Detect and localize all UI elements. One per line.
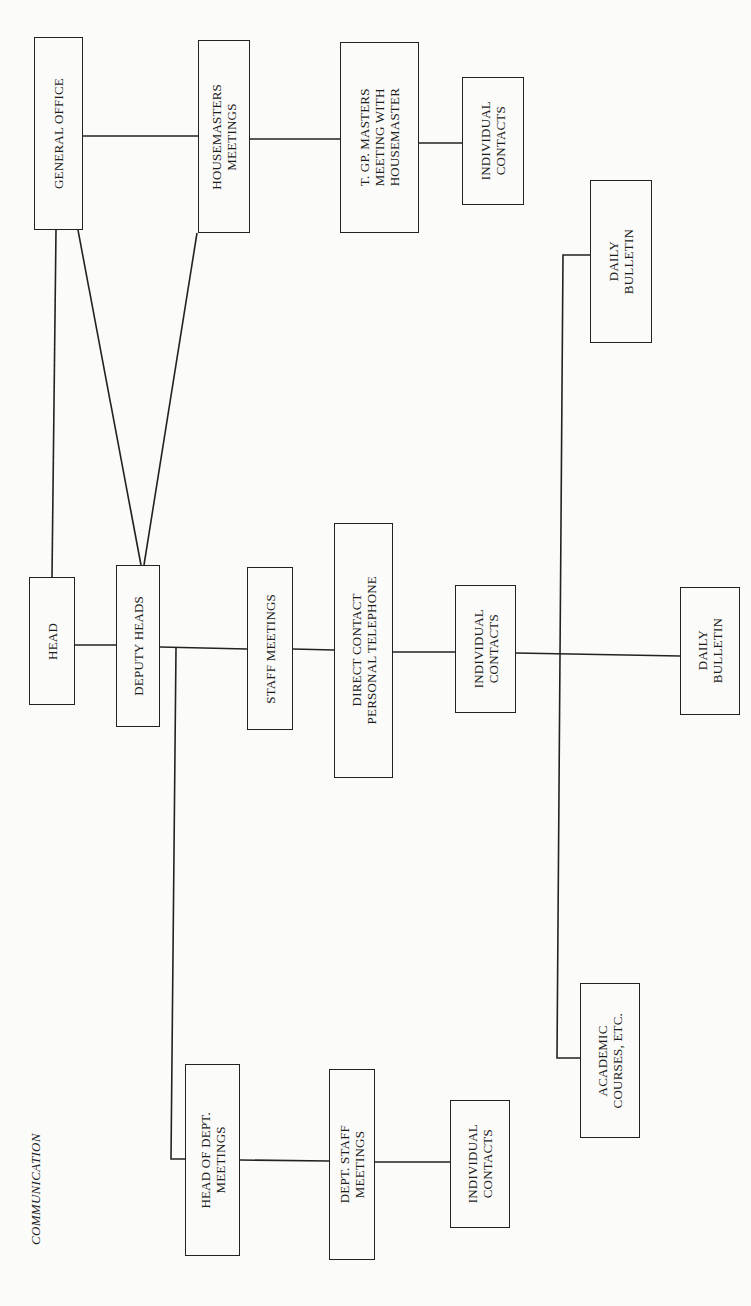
node-label: T. GP. MASTERS MEETING WITH HOUSEMASTER	[357, 88, 402, 186]
figure-caption: COMMUNICATION	[28, 1095, 44, 1245]
node-label: STAFF MEETINGS	[263, 594, 278, 704]
node-label: HOUSEMASTERS MEETINGS	[209, 84, 239, 190]
node-general-office: GENERAL OFFICE	[34, 37, 83, 230]
node-head: HEAD	[29, 577, 75, 705]
node-academic-courses: ACADEMIC COURSES, ETC.	[580, 983, 640, 1138]
node-label: HEAD	[45, 623, 60, 660]
node-label: DAILY BULLETIN	[695, 618, 725, 683]
node-dept-staff-meetings: DEPT. STAFF MEETINGS	[329, 1069, 375, 1260]
edge-deputy-heads-head-of-dept	[171, 648, 185, 1159]
node-deputy-heads: DEPUTY HEADS	[116, 565, 160, 727]
node-direct-contact: DIRECT CONTACT PERSONAL TELEPHONE	[334, 523, 393, 778]
node-label: INDIVIDUAL CONTACTS	[478, 101, 508, 180]
edge-general-office-head	[52, 230, 56, 577]
node-staff-meetings: STAFF MEETINGS	[247, 567, 293, 730]
node-daily-bulletin-mid: DAILY BULLETIN	[680, 587, 740, 715]
node-label: DEPT. STAFF MEETINGS	[337, 1125, 367, 1203]
node-head-of-dept-meetings: HEAD OF DEPT. MEETINGS	[185, 1064, 240, 1256]
node-label: ACADEMIC COURSES, ETC.	[595, 1013, 625, 1108]
edge-staff-meetings-direct-contact	[293, 649, 334, 650]
node-label: DEPUTY HEADS	[131, 596, 146, 696]
node-label: INDIVIDUAL CONTACTS	[471, 609, 501, 688]
node-individual-contacts-mid: INDIVIDUAL CONTACTS	[455, 585, 516, 713]
node-label: GENERAL OFFICE	[51, 78, 66, 189]
node-label: HEAD OF DEPT. MEETINGS	[198, 1112, 228, 1209]
node-individual-contacts-bottom: INDIVIDUAL CONTACTS	[450, 1100, 510, 1228]
edge-housemasters-deputy-heads	[144, 233, 197, 565]
edge-bulletin-academic-trunk	[557, 255, 590, 1058]
node-label: DIRECT CONTACT PERSONAL TELEPHONE	[349, 576, 379, 724]
node-daily-bulletin-top: DAILY BULLETIN	[590, 180, 652, 343]
node-label: DAILY BULLETIN	[606, 229, 636, 294]
node-tgp-masters-meeting: T. GP. MASTERS MEETING WITH HOUSEMASTER	[340, 42, 419, 233]
edge-deputy-heads-staff-meetings	[160, 647, 247, 649]
node-label: INDIVIDUAL CONTACTS	[465, 1124, 495, 1203]
node-housemasters-meetings: HOUSEMASTERS MEETINGS	[198, 40, 250, 233]
edge-head-of-dept-dept-staff	[240, 1160, 329, 1161]
node-individual-contacts-top: INDIVIDUAL CONTACTS	[462, 77, 524, 205]
edge-individual-contacts-daily-bulletin	[516, 653, 680, 656]
edge-general-office-deputy-heads	[78, 230, 141, 565]
